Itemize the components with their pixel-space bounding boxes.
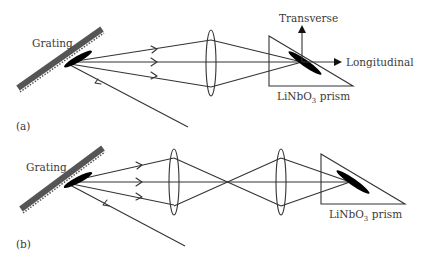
diffracted-beams-b (72, 158, 174, 205)
grating-label-a: Grating (32, 37, 73, 49)
panel-tag-a: (a) (16, 120, 30, 132)
beam-to-prism-bottom-a (211, 62, 302, 87)
prism-label-b: LiNbO3 prism (329, 208, 402, 223)
panel-b: Grating LiNbO3 prism (b) (16, 148, 405, 250)
linbo3-prism-b (321, 154, 405, 204)
beam-to-prism-top-a (211, 40, 302, 62)
input-beam-b (70, 185, 185, 246)
input-arrow-icon-a (95, 79, 101, 84)
diffracted-beams-a (70, 40, 300, 87)
prism-label-a: LiNbO3 prism (277, 90, 350, 105)
arrow-right-icon (334, 58, 342, 66)
longitudinal-label: Longitudinal (346, 56, 414, 68)
grating-label-b: Grating (26, 161, 67, 173)
transverse-label: Transverse (279, 12, 338, 24)
beam-to-prism-top-b (281, 158, 350, 182)
beam-to-prism-bottom-b (281, 182, 350, 206)
grating-b (21, 148, 105, 213)
arrow-up-icon (298, 25, 306, 33)
panel-a: Grating Transverse Longitudinal (16, 12, 414, 132)
pulse-front-in-prism-a (287, 49, 324, 78)
panel-tag-b: (b) (16, 238, 31, 250)
linbo3-prism-a (269, 36, 353, 86)
optical-setup-diagram: Grating Transverse Longitudinal (0, 0, 426, 267)
input-beam-a (70, 65, 188, 127)
